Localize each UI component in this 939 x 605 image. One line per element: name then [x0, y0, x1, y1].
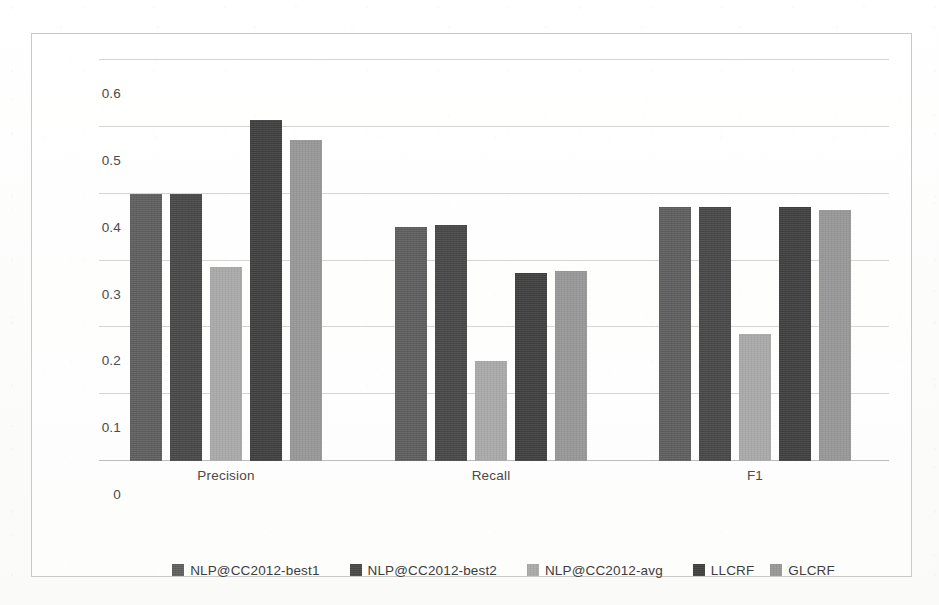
category-label-recall: Recall	[472, 468, 511, 483]
legend-label: NLP@CC2012-best2	[368, 563, 497, 578]
legend-item-llcrf[interactable]: LLCRF	[693, 563, 755, 578]
y-tick-label-0.3: 0.3	[63, 286, 121, 301]
legend-label: LLCRF	[711, 563, 755, 578]
bar-recall-glcrf[interactable]	[555, 271, 587, 461]
bar-precision-nlp-cc2012-best1[interactable]	[130, 194, 162, 461]
bar-texture	[659, 207, 691, 461]
y-tick-label-0.2: 0.2	[63, 353, 121, 368]
plot-area	[99, 60, 889, 461]
legend-item-nlp-cc2012-best2[interactable]: NLP@CC2012-best2	[350, 563, 497, 578]
legend-swatch-icon	[350, 564, 362, 576]
bar-texture	[475, 361, 507, 461]
bar-group-precision	[130, 60, 322, 461]
bar-recall-nlp-cc2012-best1[interactable]	[395, 227, 427, 461]
category-label-precision: Precision	[197, 468, 254, 483]
bar-f1-glcrf[interactable]	[819, 210, 851, 461]
chart-legend: NLP@CC2012-best1NLP@CC2012-best2NLP@CC20…	[63, 556, 939, 584]
legend-swatch-icon	[770, 564, 782, 576]
bar-f1-nlp-cc2012-avg[interactable]	[739, 334, 771, 461]
y-tick-label-0.5: 0.5	[63, 152, 121, 167]
bar-texture	[515, 273, 547, 461]
bar-f1-nlp-cc2012-best1[interactable]	[659, 207, 691, 461]
bars-layer	[99, 60, 889, 461]
legend-label: GLCRF	[788, 563, 835, 578]
bar-texture	[555, 271, 587, 461]
bar-texture	[699, 207, 731, 461]
y-tick-label-0.1: 0.1	[63, 420, 121, 435]
swatch-texture	[172, 564, 184, 576]
legend-swatch-icon	[527, 564, 539, 576]
bar-texture	[435, 225, 467, 461]
bar-group-f1	[659, 60, 851, 461]
bar-texture	[130, 194, 162, 461]
bar-f1-llcrf[interactable]	[779, 207, 811, 461]
y-tick-label-0.6: 0.6	[63, 86, 121, 101]
legend-item-glcrf[interactable]: GLCRF	[770, 563, 835, 578]
chart-frame: 00.10.20.30.40.50.6 PrecisionRecallF1 NL…	[31, 33, 912, 577]
bar-texture	[250, 120, 282, 461]
bar-recall-nlp-cc2012-avg[interactable]	[475, 361, 507, 461]
bar-texture	[210, 267, 242, 461]
legend-label: NLP@CC2012-best1	[190, 563, 319, 578]
legend-item-nlp-cc2012-best1[interactable]: NLP@CC2012-best1	[172, 563, 319, 578]
bar-recall-llcrf[interactable]	[515, 273, 547, 461]
bar-precision-nlp-cc2012-best2[interactable]	[170, 194, 202, 461]
bar-recall-nlp-cc2012-best2[interactable]	[435, 225, 467, 461]
category-label-f1: F1	[747, 468, 763, 483]
swatch-texture	[350, 564, 362, 576]
legend-label: NLP@CC2012-avg	[545, 563, 663, 578]
swatch-texture	[527, 564, 539, 576]
bar-precision-glcrf[interactable]	[290, 140, 322, 461]
bar-precision-llcrf[interactable]	[250, 120, 282, 461]
bar-texture	[290, 140, 322, 461]
legend-divider	[46, 512, 899, 513]
bar-texture	[170, 194, 202, 461]
legend-item-nlp-cc2012-avg[interactable]: NLP@CC2012-avg	[527, 563, 663, 578]
legend-swatch-icon	[693, 564, 705, 576]
bar-precision-nlp-cc2012-avg[interactable]	[210, 267, 242, 461]
bar-texture	[395, 227, 427, 461]
bar-texture	[779, 207, 811, 461]
y-tick-label-0.4: 0.4	[63, 219, 121, 234]
swatch-texture	[770, 564, 782, 576]
swatch-texture	[693, 564, 705, 576]
x-axis-category-labels: PrecisionRecallF1	[99, 468, 889, 492]
bar-texture	[819, 210, 851, 461]
bar-f1-nlp-cc2012-best2[interactable]	[699, 207, 731, 461]
legend-swatch-icon	[172, 564, 184, 576]
bar-group-recall	[395, 60, 587, 461]
bar-texture	[739, 334, 771, 461]
